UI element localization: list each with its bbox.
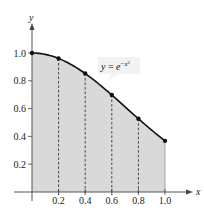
y-tick-label: 0.8 [14,75,27,86]
data-point [56,56,60,60]
y-tick-label: 1.0 [14,48,27,59]
x-tick-label: 1.0 [159,195,172,206]
y-tick-label: 0.4 [14,131,27,142]
x-tick-label: 0.2 [52,195,65,206]
data-point [110,93,114,97]
y-tick-label: 0.6 [14,103,27,114]
chart: x y 0.20.40.60.81.0 0.20.40.60.81.0 y = … [0,0,204,213]
data-point [163,139,167,143]
data-point [83,71,87,75]
data-point [136,117,140,121]
function-label: y = e−x2 [98,57,140,82]
y-axis-label: y [28,12,34,23]
x-axis-label: x [195,186,201,197]
x-tick-label: 0.8 [132,195,145,206]
x-tick-label: 0.4 [79,195,92,206]
data-point [30,51,34,55]
x-axis-arrow-icon [186,190,193,195]
y-tick-label: 0.2 [14,159,27,170]
y-ticks: 0.20.40.60.81.0 [14,48,33,170]
y-axis-arrow-icon [30,23,35,30]
x-tick-label: 0.6 [106,195,119,206]
